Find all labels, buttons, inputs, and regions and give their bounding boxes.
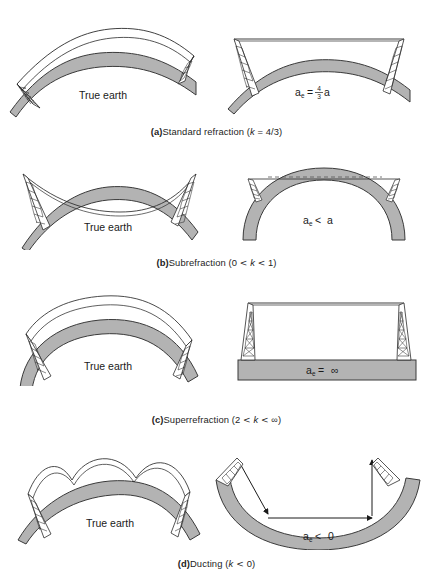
- svg-text:<: <: [315, 530, 321, 542]
- panel-a-right: a e = 4 3 a: [228, 39, 410, 114]
- svg-text:e: e: [309, 536, 313, 543]
- caption-c-prefix: (c): [152, 414, 164, 425]
- svg-text:e: e: [301, 92, 305, 99]
- caption-a-text: Standard refraction (: [162, 126, 250, 137]
- caption-b-value: 1): [265, 257, 276, 268]
- caption-b-var: k: [247, 257, 257, 268]
- formula-ae-c: a e = ∞: [306, 364, 339, 377]
- caption-a-value: 4/3): [266, 126, 283, 137]
- caption-b-text: Subrefraction (0: [169, 257, 240, 268]
- panel-d-left: True earth: [18, 459, 200, 544]
- caption-c-text: Superrefraction (2: [163, 414, 243, 425]
- caption-d-prefix: (d): [178, 558, 190, 569]
- panel-row-d: True earth: [0, 440, 433, 550]
- caption-a-prefix: (a): [151, 126, 163, 137]
- caption-d-lt1: <: [233, 559, 247, 569]
- tower-icon: [386, 179, 400, 202]
- caption-c-lt2: <: [261, 415, 269, 425]
- tower-icon: [372, 458, 400, 486]
- panel-c-left: True earth: [20, 296, 198, 386]
- caption-b-prefix: (b): [156, 257, 168, 268]
- svg-text:e: e: [309, 220, 313, 227]
- panel-a-left: True earth: [10, 28, 196, 117]
- tower-icon: [397, 303, 411, 360]
- caption-d: (d)Ducting (k < 0): [0, 558, 433, 569]
- true-earth-label-a: True earth: [79, 89, 127, 101]
- svg-text:a: a: [327, 214, 333, 226]
- tower-icon: [23, 174, 50, 230]
- caption-a-rel: =: [255, 126, 266, 137]
- panel-row-a: True earth a: [0, 12, 433, 120]
- svg-text:∞: ∞: [331, 364, 339, 376]
- svg-text:3: 3: [317, 93, 321, 100]
- caption-d-value: 0): [247, 558, 256, 569]
- svg-text:=: =: [307, 86, 313, 98]
- figure-refraction-diagrams: True earth a: [0, 0, 433, 583]
- panel-c-svg: True earth: [0, 284, 433, 386]
- formula-ae-a: a e = 4 3 a: [295, 85, 330, 100]
- panel-b-svg: True earth: [0, 152, 433, 250]
- tower-icon: [216, 458, 243, 486]
- formula-ae-d: a e < 0: [303, 530, 334, 543]
- caption-a: (a)Standard refraction (k = 4/3): [0, 126, 433, 137]
- tower-icon: [234, 39, 259, 96]
- panel-b-left: True earth: [22, 174, 198, 250]
- caption-c-var: k: [251, 414, 261, 425]
- panel-row-c: True earth: [0, 284, 433, 386]
- svg-text:=: =: [318, 364, 324, 376]
- true-earth-label-d: True earth: [86, 517, 134, 529]
- true-earth-label-b: True earth: [84, 221, 132, 233]
- caption-c: (c)Superrefraction (2 < k < ∞): [0, 414, 433, 425]
- formula-ae-b: a e < a: [303, 214, 333, 227]
- caption-c-lt1: <: [243, 415, 251, 425]
- svg-text:a: a: [324, 86, 330, 98]
- svg-text:0: 0: [328, 530, 334, 542]
- caption-c-value: ∞): [269, 414, 282, 425]
- true-earth-label-c: True earth: [84, 360, 132, 372]
- svg-text:e: e: [312, 370, 316, 377]
- panel-row-b: True earth: [0, 152, 433, 250]
- svg-text:<: <: [315, 214, 321, 226]
- tower-icon: [248, 179, 262, 202]
- page-header-artifact: [178, 1, 428, 9]
- caption-d-text: Ducting (: [190, 558, 228, 569]
- panel-d-svg: True earth: [0, 440, 433, 550]
- panel-a-svg: True earth a: [0, 12, 433, 120]
- caption-b: (b)Subrefraction (0 < k < 1): [0, 257, 433, 268]
- panel-b-right: a e < a: [243, 168, 405, 240]
- panel-d-right: a e < 0: [216, 458, 420, 550]
- tower-icon: [241, 303, 255, 360]
- panel-c-right: a e = ∞: [238, 303, 416, 380]
- svg-text:4: 4: [317, 85, 321, 92]
